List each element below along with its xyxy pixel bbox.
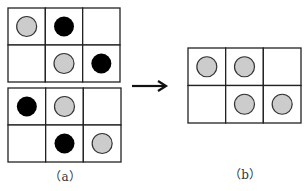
grid-cell [83,8,120,45]
gray-circle-icon [54,54,74,74]
caption-b: （b） [229,168,261,182]
gray-circle-icon [17,17,37,37]
grid-cell [8,125,46,162]
grid-cell [263,48,301,86]
grid-cell [188,86,226,124]
grid-panel-a-top [8,8,120,82]
gray-circle-icon [92,134,112,154]
grid-panel-a-bottom [8,88,121,162]
gray-circle-icon [272,94,292,114]
grid-cell [83,88,121,125]
black-circle-icon [54,17,74,37]
gray-circle-icon [235,57,255,77]
gray-circle-icon [235,94,255,114]
black-circle-icon [91,54,111,74]
figure-canvas: （a） （b） [0,0,306,191]
black-circle-icon [17,97,37,117]
black-circle-icon [55,134,75,154]
gray-circle-icon [197,57,217,77]
caption-a: （a） [49,170,80,184]
gray-circle-icon [55,97,75,117]
grid-panel-b [188,48,301,123]
right-arrow-icon [132,81,166,91]
grid-cell [8,45,45,82]
